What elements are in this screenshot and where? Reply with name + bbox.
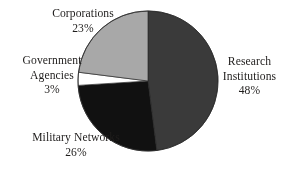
pie-label-government-agencies-text-line1: Government (0, 54, 104, 69)
pie-label-government-agencies: Government Agencies 3% (0, 54, 104, 98)
pie-label-research-institutions: Research Institutions 48% (214, 55, 285, 99)
pie-label-corporations-value: 23% (24, 22, 142, 37)
pie-label-research-institutions-text-line1: Research (214, 55, 285, 70)
pie-label-military-networks-value: 26% (12, 146, 140, 161)
pie-chart: Corporations 23% Government Agencies 3% … (0, 0, 285, 173)
pie-label-research-institutions-text-line2: Institutions (214, 70, 285, 85)
pie-label-research-institutions-value: 48% (214, 84, 285, 99)
pie-label-military-networks-text: Military Networks (12, 131, 140, 146)
pie-label-government-agencies-text-line2: Agencies (0, 69, 104, 84)
pie-label-government-agencies-value: 3% (0, 83, 104, 98)
pie-label-corporations: Corporations 23% (24, 7, 142, 36)
pie-label-military-networks: Military Networks 26% (12, 131, 140, 160)
pie-label-corporations-text: Corporations (24, 7, 142, 22)
pie-slice-research-institutions (148, 11, 218, 150)
